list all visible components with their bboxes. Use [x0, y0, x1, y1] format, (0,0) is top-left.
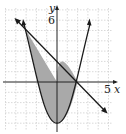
parabola-right-arrow-icon: [87, 19, 92, 26]
x-axis-label: x: [114, 83, 121, 96]
y-tick-label-6: 6: [48, 14, 55, 27]
y-axis-arrow-icon: [55, 5, 59, 10]
shaded-region: [26, 31, 78, 124]
x-tick-label-5: 5: [104, 83, 111, 96]
graph: y 6 5 x: [0, 0, 126, 134]
